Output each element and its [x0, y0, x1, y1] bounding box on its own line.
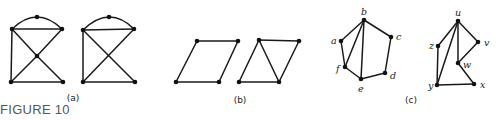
- vertex-BL: [174, 80, 179, 85]
- vertex-label-d: d: [390, 70, 396, 81]
- vertex-label-f: f: [335, 63, 341, 74]
- edge-TL-TR: [259, 40, 299, 41]
- edge-e-f: [345, 67, 361, 79]
- edge-C-BR: [37, 56, 63, 82]
- edge-f-a: [341, 41, 345, 67]
- vertex-BR: [133, 80, 138, 85]
- vertex-v: [476, 40, 481, 45]
- graph-a-1: [9, 15, 66, 85]
- edge-c-d: [385, 37, 391, 73]
- edge-d-e: [361, 73, 385, 79]
- vertex-b: [362, 18, 367, 23]
- edge-u-z: [438, 21, 458, 46]
- graph-b-2: [237, 38, 302, 85]
- vertex-a: [339, 39, 344, 44]
- edge-BL-TL: [176, 41, 197, 82]
- panel-label-b: (b): [234, 95, 247, 105]
- edge-BL-TL: [239, 40, 259, 82]
- vertex-TOP: [35, 15, 40, 20]
- figure-caption: FIGURE 10: [0, 102, 70, 117]
- vertex-d: [383, 71, 388, 76]
- vertex-label-v: v: [484, 37, 490, 48]
- vertex-TL: [257, 38, 262, 43]
- graph-c-2: uzvwyx: [427, 7, 490, 91]
- edge-u-v: [458, 21, 478, 42]
- vertex-BR: [277, 80, 282, 85]
- vertex-BR: [217, 80, 222, 85]
- vertex-u: [456, 19, 461, 24]
- vertex-TL: [81, 28, 86, 33]
- figure-10-graphs: (a) (b) bacfeduzvwyx(c): [0, 0, 500, 120]
- vertex-C: [35, 54, 40, 59]
- vertex-TOP: [107, 15, 112, 20]
- vertex-x: [472, 82, 477, 87]
- edge-u-y: [437, 21, 458, 85]
- vertex-label-z: z: [428, 40, 435, 51]
- vertex-label-y: y: [427, 80, 434, 91]
- vertex-f: [343, 65, 348, 70]
- vertex-z: [436, 44, 441, 49]
- vertex-label-e: e: [358, 83, 364, 94]
- edge-b-f: [345, 20, 364, 67]
- graph-a-2: [81, 15, 138, 85]
- vertex-c: [389, 35, 394, 40]
- vertex-BL: [81, 80, 86, 85]
- edge-y-x: [437, 84, 474, 85]
- edge-TL-C: [12, 29, 37, 56]
- vertex-TL: [195, 39, 200, 44]
- edge-TL-BL: [11, 29, 12, 82]
- panel-c: bacfeduzvwyx(c): [331, 6, 490, 105]
- graph-b-1: [174, 39, 241, 85]
- edge-TR-BR: [219, 41, 238, 82]
- vertex-TR: [60, 27, 65, 32]
- edge-C-BL: [11, 56, 37, 82]
- vertex-label-b: b: [361, 6, 367, 17]
- edge-TR-BR: [279, 41, 299, 82]
- edge-TL-BR: [259, 40, 279, 82]
- vertex-BR: [61, 80, 66, 85]
- edge-b-c: [364, 20, 391, 37]
- panel-label-c: (c): [405, 95, 417, 105]
- vertex-label-a: a: [331, 35, 337, 46]
- vertex-e: [359, 77, 364, 82]
- graph-c-1: bacfed: [331, 6, 402, 94]
- edge-TR-C: [37, 29, 62, 56]
- vertex-TR: [132, 27, 137, 32]
- vertex-TL: [10, 27, 15, 32]
- vertex-TR: [297, 39, 302, 44]
- vertex-label-c: c: [396, 31, 402, 42]
- vertex-label-w: w: [463, 59, 471, 70]
- panel-a: (a): [9, 15, 138, 103]
- panel-b: (b): [174, 38, 302, 105]
- edge-TL-TR: [83, 29, 134, 30]
- vertex-y: [435, 83, 440, 88]
- edge-z-y: [437, 46, 438, 85]
- vertex-TR: [236, 39, 241, 44]
- vertex-label-x: x: [480, 79, 486, 90]
- edge-b-e: [361, 20, 364, 79]
- vertex-BL: [9, 80, 14, 85]
- vertex-label-u: u: [455, 7, 461, 18]
- vertex-w: [456, 61, 461, 66]
- vertex-BL: [237, 80, 242, 85]
